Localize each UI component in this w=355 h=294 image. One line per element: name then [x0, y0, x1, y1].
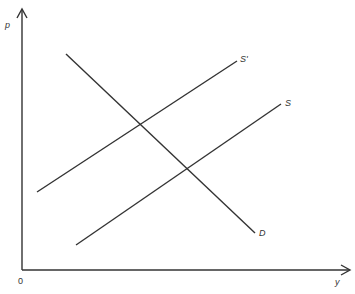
supply-label: S	[285, 98, 291, 108]
supply-shifted-label: S'	[240, 54, 248, 64]
demand-line	[66, 54, 255, 233]
x-axis-label: y	[335, 277, 340, 287]
y-axis-label: p	[5, 20, 10, 30]
diagram-canvas	[0, 0, 355, 294]
supply-shifted-line	[37, 61, 237, 192]
demand-label: D	[259, 228, 266, 238]
supply-line	[76, 104, 281, 245]
origin-label: 0	[18, 276, 23, 286]
